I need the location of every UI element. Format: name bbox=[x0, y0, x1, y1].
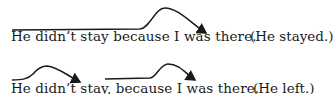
example-gloss-2: (He left.) bbox=[253, 80, 315, 94]
example-sentence-1: He didn’t stay because I was there. bbox=[11, 28, 257, 44]
contour-arrow-2b bbox=[105, 64, 195, 80]
example-gloss-1: (He stayed.) bbox=[250, 28, 334, 44]
example-sentence-2: He didn’t stay, because I was there. bbox=[11, 80, 259, 94]
